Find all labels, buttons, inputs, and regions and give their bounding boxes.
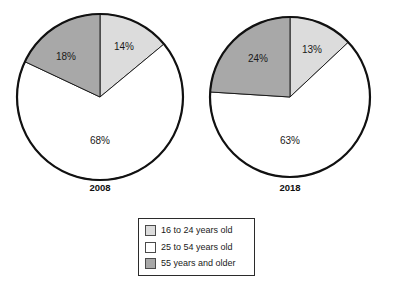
pie-chart-figure: 14%68%18%200813%63%24%2018 16 to 24 year…: [0, 0, 395, 296]
slice-value-2018-0: 13%: [302, 44, 322, 55]
pie-2008: 14%68%18%2008: [17, 14, 183, 193]
legend-label-16-to-24: 16 to 24 years old: [161, 225, 233, 236]
pie-year-label-2018: 2018: [279, 182, 300, 193]
legend-item-16-to-24: 16 to 24 years old: [145, 223, 249, 238]
legend-swatch-16-to-24: [145, 225, 156, 236]
legend-item-55-and-older: 55 years and older: [145, 256, 249, 271]
pie-2018: 13%63%24%2018: [210, 17, 370, 193]
pie-year-label-2008: 2008: [89, 182, 110, 193]
slice-value-2008-0: 14%: [114, 41, 134, 52]
legend-item-25-to-54: 25 to 54 years old: [145, 240, 249, 255]
chart-legend: 16 to 24 years old 25 to 54 years old 55…: [138, 218, 255, 276]
legend-swatch-55-and-older: [145, 258, 156, 269]
slice-value-2008-1: 68%: [90, 135, 110, 146]
legend-label-25-to-54: 25 to 54 years old: [161, 242, 233, 253]
slice-value-2008-2: 18%: [56, 51, 76, 62]
slice-value-2018-1: 63%: [280, 135, 300, 146]
legend-label-55-and-older: 55 years and older: [161, 258, 236, 269]
legend-swatch-25-to-54: [145, 242, 156, 253]
slice-value-2018-2: 24%: [248, 53, 268, 64]
